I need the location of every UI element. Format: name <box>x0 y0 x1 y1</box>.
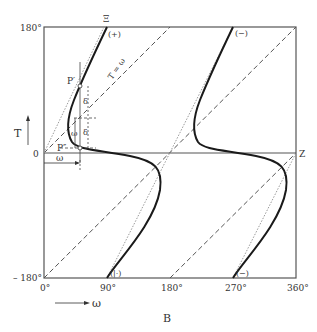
t-equals-omega-label: T = ω <box>106 56 127 81</box>
t-arrowhead-icon <box>26 115 30 121</box>
point-p-double-prime <box>78 146 82 150</box>
xi-label: Ξ <box>103 14 109 24</box>
y-tick-neg180: – 180° <box>13 273 42 283</box>
phase-diagram: 180° 0 – 180° T 0° 90° 180° 270° 360° ω … <box>0 0 317 332</box>
y-axis-label: T <box>14 127 22 140</box>
x-axis-arrowhead-icon <box>84 301 90 305</box>
delta-lower-label: δ <box>83 128 88 137</box>
delta-upper-label: δ <box>83 97 88 106</box>
minus-top-label: (−) <box>235 29 248 38</box>
x-tick-0: 0° <box>40 283 50 293</box>
y-tick-0: 0 <box>33 149 39 159</box>
x-tick-90: 90° <box>100 283 116 293</box>
p-double-prime-label: P″ <box>57 143 67 153</box>
figure-label: B <box>163 312 171 325</box>
omega-vertical-label: ω <box>71 129 78 138</box>
omega-arrowhead-icon <box>75 161 80 165</box>
x-axis-label: ω <box>92 297 101 310</box>
minus-bottom-label: (−) <box>236 269 249 278</box>
omega-horizontal-label: ω <box>56 153 63 163</box>
z-label: Z <box>299 149 305 159</box>
plus-bottom-label: (|·) <box>110 269 121 278</box>
p-prime-label: P′ <box>67 76 75 86</box>
x-tick-360: 360° <box>287 283 309 293</box>
construction-lines <box>60 62 96 172</box>
y-tick-180: 180° <box>20 23 42 33</box>
point-p-prime <box>78 84 82 88</box>
x-tick-270: 270° <box>225 283 247 293</box>
x-tick-180: 180° <box>161 283 183 293</box>
plus-top-label: (+) <box>108 30 121 39</box>
